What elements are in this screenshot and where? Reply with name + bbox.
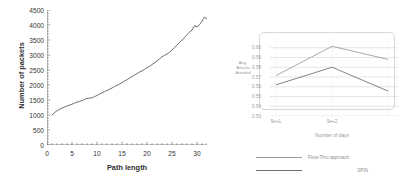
right-x-tick-label: 5e+1 xyxy=(256,119,296,124)
left-x-tick-label: 30 xyxy=(185,150,209,157)
left-y-tick-label: 4500 xyxy=(4,7,44,14)
left-data-line xyxy=(52,17,207,115)
legend-item[interactable]: SPIN xyxy=(254,165,368,177)
left-x-axis-label: Path length xyxy=(47,163,207,172)
left-plot-area xyxy=(47,10,207,145)
left-y-tick-labels: 050010001500200025003000350040004500 xyxy=(0,0,47,160)
left-x-tick-label: 0 xyxy=(35,150,59,157)
left-x-tick-label: 20 xyxy=(135,150,159,157)
right-y-tick-label: 0.60 xyxy=(239,45,261,50)
right-y-tick-label: 0.57 xyxy=(239,75,261,80)
right-x-axis-label: Number of days xyxy=(272,133,392,138)
left-y-tick-label: 1500 xyxy=(4,97,44,104)
right-y-tick-label: 0.54 xyxy=(239,104,261,109)
right-y-tick-label: 0.55 xyxy=(239,94,261,99)
right-y-tick-label: 0.56 xyxy=(239,84,261,89)
left-y-tick-label: 2500 xyxy=(4,67,44,74)
right-chart-legend: Flow-Thru approachSPIN xyxy=(254,152,368,182)
right-y-tick-label: 0.58 xyxy=(239,65,261,70)
left-y-tick-label: 3500 xyxy=(4,37,44,44)
left-y-tick-label: 4000 xyxy=(4,22,44,29)
left-y-tick-label: 0 xyxy=(4,142,44,149)
legend-item[interactable]: Flow-Thru approach xyxy=(254,152,368,164)
left-chart-panel: Number of packets 0500100015002000250030… xyxy=(0,0,232,188)
right-y-tick-label: 0.53 xyxy=(239,114,261,119)
legend-line-swatch xyxy=(256,157,302,158)
legend-label: Flow-Thru approach xyxy=(308,152,368,163)
left-x-tick-label: 5 xyxy=(60,150,84,157)
right-chart-panel: Avg.AttacksAvoided 0.600.590.580.570.560… xyxy=(232,0,368,188)
legend-line-swatch xyxy=(256,170,302,171)
left-y-tick-label: 1000 xyxy=(4,112,44,119)
left-x-tick-label: 15 xyxy=(110,150,134,157)
left-x-tick-label: 10 xyxy=(85,150,109,157)
right-x-tick-label: 5e+2 xyxy=(312,119,352,124)
left-y-tick-label: 500 xyxy=(4,127,44,134)
legend-label: SPIN xyxy=(308,165,368,176)
left-x-tick-label: 25 xyxy=(160,150,184,157)
left-y-tick-label: 3000 xyxy=(4,52,44,59)
left-axis-lines xyxy=(47,10,207,145)
right-plot-area xyxy=(262,38,398,116)
left-y-tick-label: 2000 xyxy=(4,82,44,89)
right-y-tick-label: 0.59 xyxy=(239,55,261,60)
